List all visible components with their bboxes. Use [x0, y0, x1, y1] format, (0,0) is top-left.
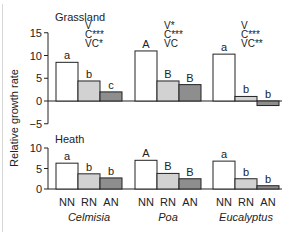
significance-letter: b	[265, 173, 271, 185]
significance-letter: a	[221, 41, 228, 53]
x-category-label: NN	[59, 196, 75, 208]
x-group-label: Poa	[158, 211, 178, 223]
bar-nn	[56, 62, 78, 101]
bar-rn	[78, 81, 100, 101]
bar-group-eucalyptus: abb	[213, 148, 279, 189]
bar-an	[100, 92, 122, 101]
significance-letter: B	[186, 72, 193, 84]
anova-stats: V*C***VC	[164, 20, 183, 49]
x-category-label: RN	[81, 196, 97, 208]
bar-group-poa: ABB	[135, 147, 201, 189]
significance-letter: B	[164, 68, 171, 80]
bar-an	[257, 101, 279, 106]
panel-heath: Heath0510abbABBabb	[30, 133, 282, 195]
bar-rn	[235, 96, 257, 101]
panel-title: Heath	[55, 133, 84, 145]
bar-rn	[157, 81, 179, 101]
significance-letter: b	[86, 68, 92, 80]
significance-letter: b	[108, 165, 114, 177]
x-group-label: Celmisia	[68, 211, 110, 223]
significance-letter: a	[64, 49, 71, 61]
panel-grassland: Grassland−5051015abcVC***VC*ABBV*C***VCa…	[29, 11, 282, 130]
bar-an	[100, 178, 122, 189]
significance-letter: B	[186, 166, 193, 178]
x-axis-labels: NNRNANCelmisiaNNRNANPoaNNRNANEucalyptus	[59, 196, 276, 223]
y-tick-label: 5	[36, 72, 42, 84]
significance-letter: b	[243, 166, 249, 178]
bar-an	[257, 186, 279, 189]
bar-nn	[135, 51, 157, 101]
bar-rn	[235, 179, 257, 189]
bar-group-poa: ABBV*C***VC	[135, 20, 201, 101]
y-tick-label: 10	[30, 142, 42, 154]
significance-letter: B	[164, 160, 171, 172]
bar-group-celmisia: abcVC***VC*	[56, 20, 122, 101]
bar-nn	[213, 161, 235, 189]
x-category-label: AN	[260, 196, 275, 208]
significance-letter: A	[142, 147, 150, 159]
x-category-label: RN	[238, 196, 254, 208]
panel-title: Grassland	[55, 11, 105, 23]
y-tick-label: 5	[36, 163, 42, 175]
significance-letter: a	[64, 150, 71, 162]
y-tick-label: −5	[29, 118, 42, 130]
chart-panels: Grassland−5051015abcVC***VC*ABBV*C***VCa…	[29, 11, 282, 195]
bar-rn	[78, 174, 100, 189]
bar-an	[179, 85, 201, 101]
x-category-label: AN	[182, 196, 197, 208]
y-tick-label: 0	[36, 183, 42, 195]
bar-group-eucalyptus: abbVC***VC**	[213, 20, 279, 106]
anova-stats: VC***VC*	[85, 20, 104, 49]
significance-letter: b	[86, 161, 92, 173]
bar-rn	[157, 173, 179, 189]
y-tick-label: 10	[30, 50, 42, 62]
x-category-label: NN	[138, 196, 154, 208]
y-axis-label: Relative growth rate	[8, 69, 20, 167]
x-category-label: RN	[160, 196, 176, 208]
significance-letter: A	[142, 38, 150, 50]
bar-nn	[135, 160, 157, 189]
bar-group-celmisia: abb	[56, 150, 122, 189]
bar-nn	[213, 54, 235, 101]
y-tick-label: 0	[36, 95, 42, 107]
y-tick-label: 15	[30, 27, 42, 39]
anova-stats: VC***VC**	[241, 20, 263, 49]
significance-letter: a	[221, 148, 228, 160]
growth-rate-chart: Relative growth rate Grassland−5051015ab…	[0, 0, 295, 234]
x-group-label: Eucalyptus	[219, 211, 273, 223]
significance-letter: b	[243, 83, 249, 95]
significance-letter: c	[108, 79, 114, 91]
bar-an	[179, 179, 201, 189]
significance-letter: b	[265, 88, 271, 100]
x-category-label: NN	[216, 196, 232, 208]
bar-nn	[56, 163, 78, 189]
x-category-label: AN	[103, 196, 118, 208]
